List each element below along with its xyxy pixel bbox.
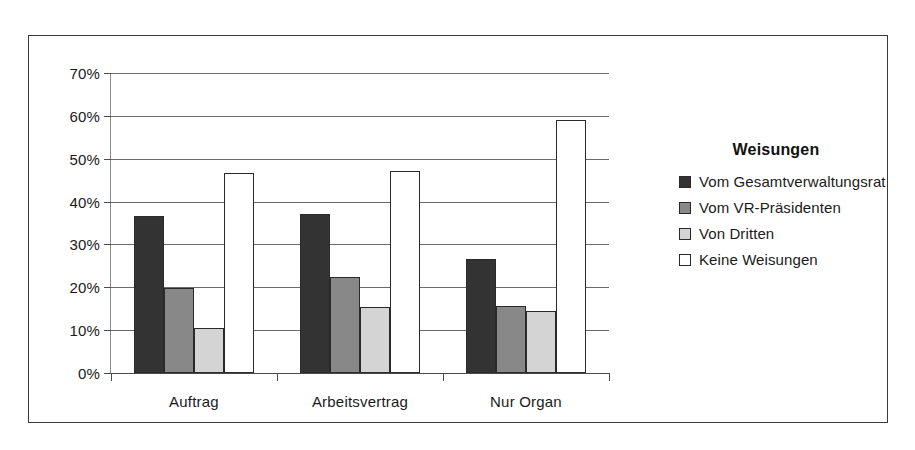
gridline [111, 159, 609, 160]
legend-item: Von Dritten [679, 225, 879, 242]
y-axis-tick [104, 287, 111, 288]
x-axis-tick [111, 373, 112, 381]
y-axis-tick [104, 116, 111, 117]
legend-swatch-icon [679, 254, 691, 266]
legend-title: Weisungen [673, 141, 879, 159]
y-axis-tick-label: 40% [69, 193, 100, 210]
bar [330, 277, 360, 373]
y-axis-tick-label: 20% [69, 279, 100, 296]
gridline [111, 373, 609, 374]
bar [390, 171, 420, 373]
y-axis-tick [104, 159, 111, 160]
x-axis-tick [609, 373, 610, 381]
x-axis-category-label: Auftrag [169, 393, 219, 410]
x-axis-tick [277, 373, 278, 381]
bar [360, 307, 390, 373]
legend-item-label: Vom Gesamtverwaltungsrat [699, 173, 886, 190]
gridline [111, 73, 609, 74]
y-axis-tick-label: 70% [69, 65, 100, 82]
bar [466, 259, 496, 373]
gridline [111, 244, 609, 245]
y-axis-tick [104, 202, 111, 203]
gridline [111, 116, 609, 117]
plot-area: 0%10%20%30%40%50%60%70% AuftragArbeitsve… [111, 73, 609, 373]
bar [526, 311, 556, 373]
legend-swatch-icon [679, 228, 691, 240]
bar [496, 306, 526, 373]
y-axis-line [110, 73, 111, 373]
legend-item: Vom VR-Präsidenten [679, 199, 879, 216]
bar [164, 288, 194, 373]
x-axis-category-label: Arbeitsvertrag [312, 393, 408, 410]
bar [134, 216, 164, 373]
chart-legend: Weisungen Vom GesamtverwaltungsratVom VR… [679, 141, 879, 277]
chart-figure: 0%10%20%30%40%50%60%70% AuftragArbeitsve… [28, 35, 888, 423]
legend-swatch-icon [679, 202, 691, 214]
legend-items: Vom GesamtverwaltungsratVom VR-Präsident… [679, 173, 879, 268]
bar [556, 120, 586, 373]
y-axis-tick-label: 10% [69, 322, 100, 339]
legend-item-label: Von Dritten [699, 225, 774, 242]
gridline [111, 202, 609, 203]
x-axis-tick [443, 373, 444, 381]
y-axis-tick-label: 60% [69, 107, 100, 124]
legend-item: Vom Gesamtverwaltungsrat [679, 173, 879, 190]
y-axis-tick-label: 0% [78, 365, 100, 382]
y-axis-tick [104, 330, 111, 331]
y-axis-tick [104, 73, 111, 74]
legend-item-label: Vom VR-Präsidenten [699, 199, 841, 216]
y-axis-tick-label: 30% [69, 236, 100, 253]
y-axis-tick-label: 50% [69, 150, 100, 167]
bar [300, 214, 330, 373]
y-axis-tick [104, 373, 111, 374]
legend-swatch-icon [679, 176, 691, 188]
legend-item-label: Keine Weisungen [699, 251, 818, 268]
y-axis-tick [104, 244, 111, 245]
bar [224, 173, 254, 373]
x-axis-category-label: Nur Organ [490, 393, 562, 410]
legend-item: Keine Weisungen [679, 251, 879, 268]
bar [194, 328, 224, 373]
